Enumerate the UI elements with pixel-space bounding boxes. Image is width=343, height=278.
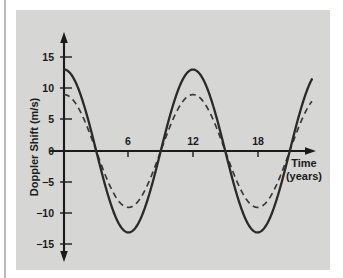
x-tick-label-12: 12 — [187, 135, 199, 147]
figure-page: 15 10 5 0 −5 −10 −15 6 12 18 Doppler Shi… — [0, 0, 343, 278]
doppler-shift-chart: 15 10 5 0 −5 −10 −15 6 12 18 Doppler Shi… — [16, 10, 330, 270]
y-tick-label-neg5: −5 — [42, 176, 54, 188]
x-tick-label-6: 6 — [125, 135, 131, 147]
x-tick-label-18: 18 — [252, 135, 264, 147]
y-tick-label-0: 0 — [48, 145, 54, 157]
y-tick-label-5: 5 — [48, 113, 54, 125]
x-axis-title: Time — [291, 157, 316, 169]
x-axis-title-unit: (years) — [286, 170, 322, 182]
y-tick-label-neg10: −10 — [36, 207, 54, 219]
chart-panel: 15 10 5 0 −5 −10 −15 6 12 18 Doppler Shi… — [16, 10, 330, 270]
x-axis-right-arrow-icon — [305, 147, 316, 155]
y-axis-title: Doppler Shift (m/s) — [28, 97, 40, 196]
y-tick-label-10: 10 — [42, 82, 54, 94]
page-margin-rule — [4, 0, 6, 278]
y-tick-label-15: 15 — [42, 51, 54, 63]
y-axis-bottom-arrow-icon — [60, 251, 68, 262]
y-tick-label-neg15: −15 — [36, 238, 54, 250]
y-axis-top-arrow-icon — [60, 32, 68, 43]
